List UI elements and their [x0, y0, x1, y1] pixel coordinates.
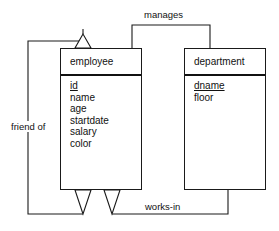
- entity-employee-title: employee: [61, 56, 113, 68]
- entity-employee-title-cell: employee: [61, 49, 141, 76]
- edge-label-manages: manages: [142, 9, 185, 20]
- attribute-color: color: [70, 138, 141, 150]
- entity-department-title: department: [185, 56, 245, 68]
- edge-manages[interactable]: [132, 25, 210, 48]
- attribute-id: id: [70, 80, 141, 92]
- attribute-age: age: [70, 103, 141, 115]
- edge-label-works-in: works-in: [143, 201, 182, 212]
- entity-department-attributes: dname floor: [185, 78, 265, 103]
- edge-label-friend-of: friend of: [9, 121, 47, 132]
- attribute-floor: floor: [194, 92, 265, 104]
- entity-department-title-cell: department: [185, 49, 265, 76]
- entity-department[interactable]: department dname floor: [184, 48, 266, 190]
- arrowhead-employee-bottom-left: [75, 190, 91, 214]
- attribute-dname: dname: [194, 80, 265, 92]
- entity-employee-attributes: id name age startdate salary color: [61, 78, 141, 150]
- arrowhead-employee-bottom-right: [104, 190, 120, 214]
- attribute-name: name: [70, 92, 141, 104]
- er-diagram-canvas: employee id name age startdate salary co…: [0, 0, 279, 231]
- entity-employee[interactable]: employee id name age startdate salary co…: [60, 48, 142, 190]
- arrowhead-employee-top: [75, 29, 91, 48]
- attribute-startdate: startdate: [70, 115, 141, 127]
- attribute-salary: salary: [70, 126, 141, 138]
